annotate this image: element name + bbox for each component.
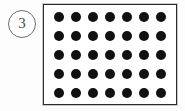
dot-marker <box>71 31 81 41</box>
dot-marker <box>88 50 98 60</box>
dot-marker <box>156 12 166 22</box>
dot-marker <box>122 88 132 98</box>
dot-marker <box>139 12 149 22</box>
dot-row <box>47 83 173 102</box>
dot-row <box>47 45 173 64</box>
dot-marker <box>88 88 98 98</box>
dot-marker <box>54 69 64 79</box>
dot-marker <box>105 12 115 22</box>
dot-marker <box>54 31 64 41</box>
dot-marker <box>54 88 64 98</box>
dot-marker <box>71 69 81 79</box>
dot-marker <box>122 69 132 79</box>
dot-panel <box>43 4 177 105</box>
dot-row <box>47 64 173 83</box>
dot-marker <box>88 12 98 22</box>
dot-marker <box>139 31 149 41</box>
dot-marker <box>105 50 115 60</box>
dot-marker <box>105 31 115 41</box>
dot-marker <box>71 50 81 60</box>
circled-number-badge: 3 <box>8 10 36 38</box>
dot-grid <box>44 5 176 104</box>
dot-marker <box>156 50 166 60</box>
dot-marker <box>105 69 115 79</box>
dot-marker <box>88 69 98 79</box>
dot-marker <box>156 88 166 98</box>
dot-marker <box>88 31 98 41</box>
dot-marker <box>139 69 149 79</box>
dot-marker <box>122 12 132 22</box>
dot-marker <box>156 31 166 41</box>
figure-container: 3 <box>0 0 185 111</box>
dot-marker <box>122 31 132 41</box>
dot-marker <box>122 50 132 60</box>
dot-marker <box>139 50 149 60</box>
dot-marker <box>156 69 166 79</box>
dot-marker <box>54 12 64 22</box>
dot-marker <box>71 88 81 98</box>
circled-number-badge-label: 3 <box>9 11 35 37</box>
dot-marker <box>54 50 64 60</box>
dot-row <box>47 7 173 26</box>
dot-marker <box>71 12 81 22</box>
dot-marker <box>105 88 115 98</box>
dot-marker <box>139 88 149 98</box>
dot-row <box>47 26 173 45</box>
